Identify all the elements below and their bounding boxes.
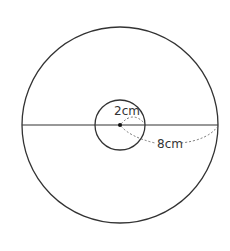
inner-radius-dashed-arc: [121, 117, 145, 124]
outer-radius-dashed-arc-left: [121, 126, 155, 143]
outer-radius-label: 8cm: [157, 137, 183, 151]
outer-radius-dashed-arc-right: [181, 126, 218, 143]
inner-radius-label: 2cm: [114, 104, 140, 118]
concentric-circles-diagram: 2cm 8cm: [0, 0, 230, 251]
